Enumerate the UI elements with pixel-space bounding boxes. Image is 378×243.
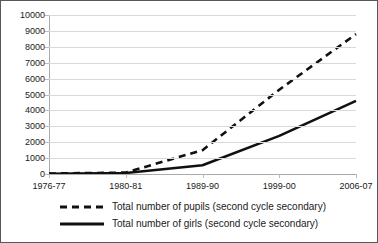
chart-legend: Total number of pupils (second cycle sec… [1, 198, 378, 232]
x-axis-tick-label: 2006-07 [339, 181, 372, 192]
series-line-pupils [49, 34, 356, 173]
y-axis-tickmark [45, 142, 49, 143]
y-axis-tickmark [45, 15, 49, 16]
legend-label-pupils: Total number of pupils (second cycle sec… [112, 201, 326, 213]
y-axis-tick-label: 10000 [3, 11, 45, 20]
x-axis-tick-label: 1989-90 [186, 181, 219, 192]
gridline [49, 63, 356, 64]
y-axis-tickmark [45, 31, 49, 32]
y-axis-tick-label: 2000 [3, 138, 45, 147]
y-axis-tickmark [45, 126, 49, 127]
gridline [49, 47, 356, 48]
x-axis-tickmark [279, 174, 280, 178]
chart-figure: 0100020003000400050006000700080009000100… [0, 0, 378, 243]
y-axis-tick-label: 7000 [3, 59, 45, 68]
y-axis-tickmark [45, 110, 49, 111]
y-axis-tick-label: 1000 [3, 154, 45, 163]
x-axis-tick-label: 1999-00 [263, 181, 296, 192]
y-axis-tickmark [45, 158, 49, 159]
gridline [49, 158, 356, 159]
gridline [49, 95, 356, 96]
legend-label-girls: Total number of girls (second cycle seco… [112, 218, 318, 230]
dashed-line-swatch [59, 202, 105, 212]
x-axis-tickmark [203, 174, 204, 178]
y-axis-tick-label: 8000 [3, 43, 45, 52]
series-line-girls [49, 101, 356, 174]
solid-line-swatch [59, 219, 105, 229]
gridline [49, 126, 356, 127]
y-axis-tick-label: 9000 [3, 27, 45, 36]
x-axis-tick-label: 1980-81 [109, 181, 142, 192]
x-axis-tickmark [49, 174, 50, 178]
x-axis-tick-label: 1976-77 [32, 181, 65, 192]
y-axis-tick-label: 3000 [3, 122, 45, 131]
y-axis-tickmark [45, 79, 49, 80]
y-axis-tickmark [45, 47, 49, 48]
gridline [49, 79, 356, 80]
gridline [49, 31, 356, 32]
gridline [49, 110, 356, 111]
x-axis-tickmark [126, 174, 127, 178]
legend-item-girls: Total number of girls (second cycle seco… [1, 215, 378, 232]
gridline [49, 142, 356, 143]
plot-area [49, 15, 356, 174]
x-axis-tick-labels: 1976-771980-811989-901999-002006-07 [49, 181, 356, 195]
y-axis-tick-label: 6000 [3, 75, 45, 84]
y-axis-tickmark [45, 95, 49, 96]
gridline [49, 15, 356, 16]
y-axis-tick-label: 0 [3, 170, 45, 179]
x-axis-tickmark [356, 174, 357, 178]
y-axis-tick-label: 4000 [3, 106, 45, 115]
legend-item-pupils: Total number of pupils (second cycle sec… [1, 198, 378, 215]
y-axis-tickmark [45, 63, 49, 64]
y-axis-tick-label: 5000 [3, 91, 45, 100]
